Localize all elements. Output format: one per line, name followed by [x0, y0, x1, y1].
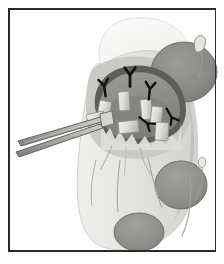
tissue-hook-loop-lower: [198, 157, 205, 168]
clip-7: [155, 122, 169, 141]
mass-bottom: [114, 213, 164, 251]
clip-1: [118, 91, 130, 111]
figure-border-top: [8, 8, 216, 10]
figure-border-left: [8, 8, 10, 251]
clip-6: [118, 120, 139, 134]
figure-border-right: [215, 8, 217, 251]
forceps-tip: [100, 111, 114, 127]
figure-border-bottom: [8, 250, 216, 252]
figure-container: [0, 0, 224, 264]
surgical-illustration: [0, 0, 224, 264]
mass-lower-right: [155, 161, 207, 209]
